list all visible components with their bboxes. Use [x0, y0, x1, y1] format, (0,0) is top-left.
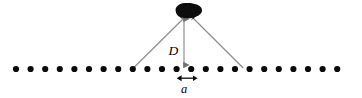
grating-dot [130, 66, 136, 72]
grating-dot [174, 66, 180, 72]
grating-dot [305, 66, 311, 72]
grating-dot [28, 66, 34, 72]
grating-dot-row [13, 66, 340, 72]
grating-dot [101, 66, 107, 72]
grating-dot [71, 66, 77, 72]
grating-dot [261, 66, 267, 72]
grating-dot [320, 66, 326, 72]
grating-dot [42, 66, 48, 72]
grating-dot [188, 66, 194, 72]
grating-dot [276, 66, 282, 72]
spacing-label-a: a [181, 82, 187, 96]
diagram-canvas: D a [0, 0, 362, 98]
grating-dot [86, 66, 92, 72]
grating-dot [217, 66, 223, 72]
grating-dot [115, 66, 121, 72]
grating-dot [13, 66, 19, 72]
grating-dot [232, 66, 238, 72]
grating-dot [247, 66, 253, 72]
grating-dot [203, 66, 209, 72]
grating-dot [290, 66, 296, 72]
grating-dot [144, 66, 150, 72]
distance-label-D: D [168, 43, 179, 58]
diffraction-diagram-figure: D a [0, 0, 362, 98]
grating-dot [334, 66, 340, 72]
grating-dot [159, 66, 165, 72]
grating-dot [57, 66, 63, 72]
